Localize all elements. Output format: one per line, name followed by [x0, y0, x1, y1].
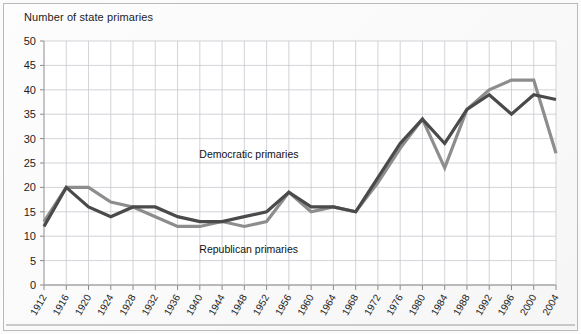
- x-tick-label: 1920: [73, 292, 94, 317]
- y-tick-label: 50: [24, 35, 36, 47]
- x-axis-tick-labels: 1912191619201924192819321936194019441948…: [28, 292, 561, 317]
- y-axis-tick-labels: 05101520253035404550: [24, 35, 36, 291]
- chart-figure: Number of state primaries 05101520253035…: [0, 0, 581, 334]
- y-tick-label: 25: [24, 157, 36, 169]
- annotation-republican-primaries: Republican primaries: [199, 243, 298, 255]
- x-tick-label: 1948: [228, 292, 249, 317]
- x-tick-label: 1992: [473, 292, 494, 317]
- x-tick-label: 1960: [295, 292, 316, 317]
- x-tick-label: 1964: [317, 292, 338, 317]
- x-tick-label: 1956: [273, 292, 294, 317]
- annotation-democratic-primaries: Democratic primaries: [199, 148, 298, 160]
- x-tick-label: 1928: [117, 292, 138, 317]
- y-tick-label: 45: [24, 59, 36, 71]
- y-tick-label: 35: [24, 108, 36, 120]
- y-axis-tickmarks: [40, 41, 44, 285]
- x-tick-label: 2000: [518, 292, 539, 317]
- x-tick-label: 1952: [251, 292, 272, 317]
- line-chart-plot: 05101520253035404550 1912191619201924192…: [0, 0, 581, 334]
- x-tick-label: 1980: [407, 292, 428, 317]
- y-tick-label: 10: [24, 230, 36, 242]
- x-tick-label: 1916: [50, 292, 71, 317]
- x-tick-label: 1944: [206, 292, 227, 317]
- x-tick-label: 1988: [451, 292, 472, 317]
- x-tick-label: 1968: [340, 292, 361, 317]
- y-tick-label: 40: [24, 84, 36, 96]
- y-tick-label: 0: [30, 279, 36, 291]
- x-tick-label: 1996: [496, 292, 517, 317]
- x-tick-label: 1940: [184, 292, 205, 317]
- x-tick-label: 1924: [95, 292, 116, 317]
- x-tick-label: 1984: [429, 292, 450, 317]
- x-tick-label: 1976: [384, 292, 405, 317]
- y-tick-label: 5: [30, 255, 36, 267]
- x-axis-tickmarks: [44, 285, 556, 290]
- x-tick-label: 2004: [540, 292, 561, 317]
- x-tick-label: 1972: [362, 292, 383, 317]
- x-tick-label: 1932: [139, 292, 160, 317]
- y-tick-label: 15: [24, 206, 36, 218]
- x-tick-label: 1912: [28, 292, 49, 317]
- y-tick-label: 20: [24, 181, 36, 193]
- y-tick-label: 30: [24, 133, 36, 145]
- x-tick-label: 1936: [162, 292, 183, 317]
